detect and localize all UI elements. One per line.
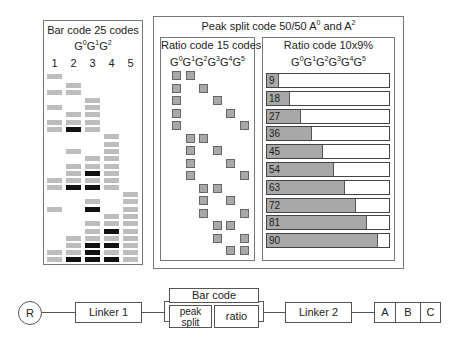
barcode-cell	[85, 112, 100, 117]
ratio-bar: 72	[266, 198, 390, 213]
ratio-square	[172, 96, 181, 105]
barcode-cell	[123, 214, 138, 219]
ratio-square	[172, 121, 181, 130]
ratio-square	[199, 184, 208, 193]
ratio-square	[213, 184, 222, 193]
barcode-cell	[66, 90, 81, 95]
ratio-square	[226, 159, 235, 168]
barcode-cell	[104, 221, 119, 226]
ratio-square	[240, 209, 249, 218]
barcode-cell	[123, 243, 138, 248]
c-label: C	[427, 307, 435, 318]
ratio10-formula: G0G1G2G3G4G5	[263, 56, 394, 68]
resin-circle: R	[18, 301, 42, 325]
ratio-square	[240, 246, 249, 255]
barcode-cell	[66, 171, 81, 176]
ratio10-title: Ratio code 10x9%	[263, 39, 394, 51]
ratio-bar-label: 18	[269, 92, 280, 105]
ratio-square	[199, 209, 208, 218]
barcode-label: Bar code	[192, 290, 236, 301]
barcode-cell-black	[85, 250, 100, 255]
connector-line	[264, 312, 285, 313]
ratio-square	[186, 71, 195, 80]
barcode-cell	[104, 185, 119, 190]
ratio-square	[226, 246, 235, 255]
barcode-cell	[47, 250, 62, 255]
ratio-bar-label: 63	[269, 181, 280, 194]
barcode-cell	[85, 236, 100, 241]
barcode-cell	[66, 178, 81, 183]
linker2-box: Linker 2	[285, 302, 352, 323]
ratio-bar: 9	[266, 73, 390, 88]
barcode-cell	[104, 134, 119, 139]
barcode-cell	[66, 243, 81, 248]
barcode-cell	[104, 250, 119, 255]
barcode-cell	[123, 229, 138, 234]
ratio-bar-label: 90	[269, 234, 280, 247]
barcode-cell	[85, 120, 100, 125]
barcode-cell	[47, 178, 62, 183]
barcode-cell-black	[104, 257, 119, 262]
barcode-cell	[104, 171, 119, 176]
ratio-bar-label: 36	[269, 127, 280, 140]
ratio-label: ratio	[226, 311, 247, 322]
connector-line	[142, 312, 164, 313]
barcode-cell	[123, 207, 138, 212]
b-label: B	[404, 307, 411, 318]
barcode-cell-black	[85, 243, 100, 248]
barcode-cell	[123, 192, 138, 197]
a-box: A	[374, 302, 396, 323]
b-box: B	[395, 302, 421, 323]
barcode-cell	[123, 257, 138, 262]
barcode-cell-black	[66, 257, 81, 262]
barcode-cell	[104, 156, 119, 161]
barcode-cell	[47, 257, 62, 262]
barcode-title: Bar code 25 codes	[44, 24, 142, 36]
barcode-cell	[47, 120, 62, 125]
barcode-cell-black	[85, 185, 100, 190]
barcode-cell	[47, 207, 62, 212]
barcode-cell	[85, 98, 100, 103]
ratio-square	[213, 96, 222, 105]
ratio15-title: Ratio code 15 codes	[161, 39, 254, 51]
barcode-cell	[47, 105, 62, 110]
ratio-bar-fill	[267, 216, 367, 229]
connector-line	[352, 312, 375, 313]
ratio-bar-label: 27	[269, 110, 280, 123]
ratio-square	[226, 196, 235, 205]
barcode-cell	[123, 199, 138, 204]
barcode-cell	[123, 236, 138, 241]
barcode-cell	[85, 105, 100, 110]
barcode-cell	[104, 164, 119, 169]
ratio-square	[172, 109, 181, 118]
column-number: 2	[66, 57, 81, 69]
barcode-cell	[104, 236, 119, 241]
ratio-bar-label: 9	[269, 74, 275, 87]
ratio-square	[240, 234, 249, 243]
barcode-cell-black	[85, 171, 100, 176]
linker1-label: Linker 1	[89, 307, 128, 318]
column-number: 1	[47, 57, 62, 69]
ratio-bar-label: 54	[269, 163, 280, 176]
ratio-bar: 63	[266, 180, 390, 195]
barcode-cell	[85, 164, 100, 169]
ratio-square	[199, 196, 208, 205]
barcode-cell	[85, 199, 100, 204]
column-number: 4	[104, 57, 119, 69]
ratio-square	[213, 234, 222, 243]
ratio-box: ratio	[214, 305, 259, 328]
column-number: 3	[85, 57, 100, 69]
barcode-cell	[85, 229, 100, 234]
barcode-cell	[66, 149, 81, 154]
ratio-square	[240, 121, 249, 130]
ratio-bar-label: 45	[269, 145, 280, 158]
ratio-square	[186, 171, 195, 180]
ratio-bar: 81	[266, 215, 390, 230]
ratio-square	[213, 146, 222, 155]
ratio-square	[186, 159, 195, 168]
peak-split-box: peak split	[169, 305, 212, 328]
ratio-square	[199, 134, 208, 143]
barcode-cell-black	[66, 185, 81, 190]
ratio-bar-fill	[267, 234, 378, 247]
barcode-cell-black	[85, 207, 100, 212]
